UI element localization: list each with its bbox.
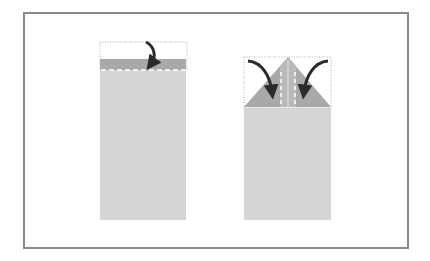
- origami-diagram: [0, 0, 430, 261]
- paper-rect: [100, 59, 186, 220]
- step-1-fold-top-down: [100, 42, 187, 220]
- folded-band: [100, 59, 186, 70]
- step-2-fold-corners-center: [244, 57, 331, 220]
